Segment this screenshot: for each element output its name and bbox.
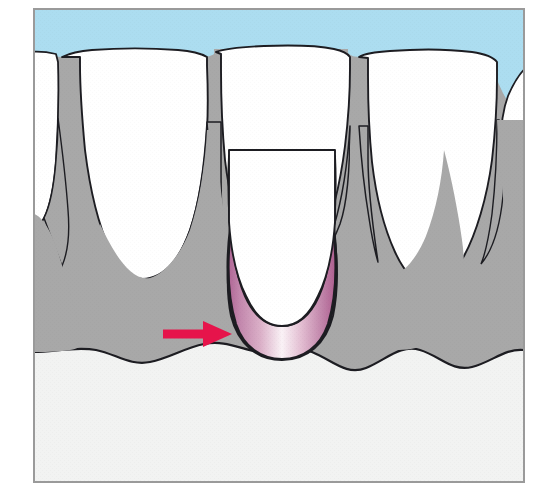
paper-texture [34, 9, 524, 482]
arrow-shaft [163, 330, 207, 339]
illustration-page [0, 0, 545, 494]
periodontal-pocket-illustration [0, 0, 545, 494]
